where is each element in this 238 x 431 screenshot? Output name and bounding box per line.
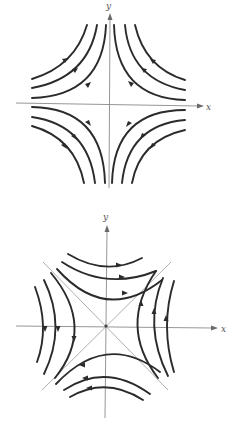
top-x-axis-arrow-icon <box>197 104 204 109</box>
flow-arrow-icon <box>85 82 91 88</box>
top-x-axis <box>16 103 199 106</box>
bottom-phase-portrait: x y <box>16 212 226 418</box>
flow-arrow-icon <box>122 291 128 296</box>
bottom-y-axis-label: y <box>102 212 109 222</box>
flow-arrow-icon <box>126 121 132 127</box>
bottom-y-axis-arrow-icon <box>105 225 110 232</box>
bottom-trajectory <box>56 354 160 384</box>
bottom-y-axis <box>105 230 107 418</box>
top-trajectory <box>135 25 185 80</box>
flow-arrow-icon <box>72 336 77 342</box>
bottom-trajectory <box>68 254 142 267</box>
bottom-trajectory <box>62 262 156 279</box>
top-y-axis-arrow-icon <box>108 13 113 20</box>
bottom-x-axis-label: x <box>221 324 226 334</box>
flow-arrow-icon <box>85 120 91 126</box>
bottom-x-axis-arrow-icon <box>211 326 218 331</box>
top-trajectory <box>32 25 87 79</box>
flow-arrow-icon <box>139 300 144 306</box>
top-trajectory <box>114 25 185 100</box>
top-y-axis-label: y <box>105 1 112 11</box>
top-y-axis <box>109 18 110 188</box>
bottom-trajectory <box>35 287 43 362</box>
bottom-trajectory <box>167 281 174 372</box>
origin-point <box>104 324 107 327</box>
figure-canvas: x y <box>0 0 238 431</box>
bottom-trajectory <box>51 273 75 378</box>
bottom-trajectory <box>70 387 143 400</box>
top-x-axis-label: x <box>206 102 211 112</box>
top-phase-portrait: x y <box>16 1 211 188</box>
bottom-trajectory <box>64 377 150 394</box>
top-trajectory <box>32 126 84 183</box>
